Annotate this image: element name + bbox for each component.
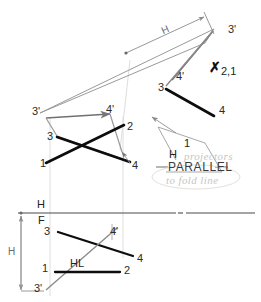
label-point-4prime-top-right: 4' xyxy=(176,71,184,82)
handwriting-to-fold-line: to fold line xyxy=(166,175,218,186)
segment-3-4-upper xyxy=(166,89,214,116)
label-point-4-top-right: 4 xyxy=(219,105,225,116)
label-point-3prime-bottom: 3' xyxy=(34,283,42,294)
label-point-1-bottom: 1 xyxy=(42,263,48,274)
label-point-4prime-left: 4' xyxy=(106,104,114,115)
label-horizontal-line-hl: HL xyxy=(70,258,84,269)
label-callout-fold-h: H xyxy=(169,149,177,160)
label-dimension-h-bottom: H xyxy=(8,247,15,257)
label-point-4-bottom: 4 xyxy=(137,253,143,264)
drawing-canvas: 3' 4' 3 4 H ✗ 2,1 3' 4' 3 2 4 1 H 1 PARA… xyxy=(0,0,261,302)
label-point-3prime-left: 3' xyxy=(32,106,40,117)
callout-leader-arrow xyxy=(152,117,176,133)
label-point-1-middle: 1 xyxy=(40,158,46,169)
label-point-2-bottom: 2 xyxy=(124,265,130,276)
segment-3prime-4prime-left xyxy=(46,114,110,118)
label-point-3-top-right: 3 xyxy=(158,82,164,93)
label-point-4prime-bottom: 4' xyxy=(110,226,118,237)
construction-projectors xyxy=(50,60,130,296)
label-point-view-2-1: 2,1 xyxy=(221,66,236,77)
label-point-4-middle: 4 xyxy=(132,160,138,171)
label-point-3-left: 3 xyxy=(47,131,53,142)
segment-3-4-bottom xyxy=(58,232,133,256)
label-callout-fold-1: 1 xyxy=(184,138,190,149)
label-point-3-bottom: 3 xyxy=(44,226,50,237)
point-view-marker-icon: ✗ xyxy=(209,60,221,74)
label-point-2-middle: 2 xyxy=(127,121,133,132)
label-fold-line-h: H xyxy=(37,199,45,210)
segment-3prime-3-top xyxy=(166,31,213,86)
label-callout-parallel: PARALLEL xyxy=(168,161,233,173)
label-point-3prime-top-right: 3' xyxy=(228,24,236,35)
handwriting-projectors: projectors xyxy=(184,151,233,162)
